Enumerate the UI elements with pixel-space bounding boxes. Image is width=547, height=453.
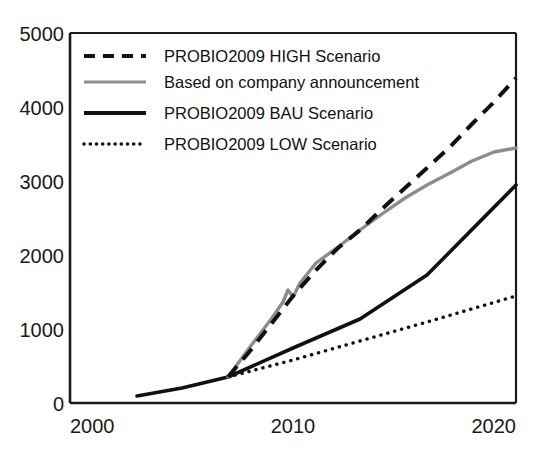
legend-item-low[interactable]: PROBIO2009 LOW Scenario (84, 135, 377, 153)
line-chart: 5000 4000 3000 2000 1000 0 2000 2010 202… (0, 0, 547, 453)
legend-label-low: PROBIO2009 LOW Scenario (164, 135, 377, 153)
series-low-scenario (228, 296, 516, 377)
legend-item-high[interactable]: PROBIO2009 HIGH Scenario (84, 47, 380, 65)
y-tick-1000: 1000 (20, 319, 65, 341)
series-company-announcement (228, 148, 516, 377)
line-company-announcement (228, 148, 516, 377)
legend-item-bau[interactable]: PROBIO2009 BAU Scenario (84, 104, 373, 122)
y-tick-3000: 3000 (20, 171, 65, 193)
series-bau-scenario (137, 185, 516, 396)
y-tick-4000: 4000 (20, 97, 65, 119)
line-probio-low (228, 296, 516, 377)
legend-item-company[interactable]: Based on company announcement (84, 73, 419, 91)
y-tick-0: 0 (53, 393, 64, 415)
x-tick-2000: 2000 (70, 415, 115, 437)
y-tick-2000: 2000 (20, 245, 65, 267)
x-tick-2010: 2010 (271, 415, 316, 437)
legend-label-bau: PROBIO2009 BAU Scenario (164, 104, 373, 122)
chart-legend: PROBIO2009 HIGH Scenario Based on compan… (84, 47, 419, 153)
legend-label-high: PROBIO2009 HIGH Scenario (164, 47, 380, 65)
legend-label-company: Based on company announcement (164, 73, 419, 91)
x-axis-tick-labels: 2000 2010 2020 (70, 415, 516, 437)
y-tick-5000: 5000 (20, 23, 65, 45)
x-tick-2020: 2020 (472, 415, 517, 437)
y-axis-tick-labels: 5000 4000 3000 2000 1000 0 (20, 23, 65, 415)
line-probio-bau (137, 185, 516, 396)
chart-container: 5000 4000 3000 2000 1000 0 2000 2010 202… (0, 0, 547, 453)
